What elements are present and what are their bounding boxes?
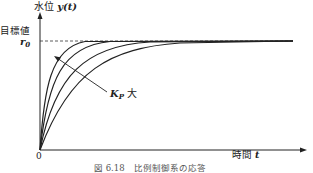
- kp-suffix: 大: [124, 88, 137, 99]
- kp-annotation-label: KP 大: [110, 89, 137, 100]
- curve-kp-largest: [40, 41, 293, 150]
- y-axis-arrow-icon: [38, 12, 43, 19]
- x-axis-label: 時間 t: [232, 150, 259, 160]
- figure-caption: 図 6.18 比例制御系の応答: [94, 164, 206, 173]
- r0-subscript: 0: [25, 40, 30, 49]
- y-axis-variable: y(t): [57, 1, 77, 12]
- x-axis-variable: t: [255, 149, 259, 160]
- y-axis-label-text: 水位: [34, 1, 57, 12]
- x-axis-label-text: 時間: [232, 149, 255, 160]
- origin-label: 0: [36, 152, 42, 161]
- curve-kp-medium: [40, 41, 293, 150]
- kp-annotation-line: [57, 58, 107, 92]
- x-axis-arrow-icon: [300, 148, 307, 153]
- response-chart: [0, 0, 313, 173]
- kp-symbol: K: [110, 88, 119, 99]
- target-value-label: 目標値: [0, 26, 30, 36]
- r0-label: r0: [20, 37, 30, 48]
- curve-kp-small: [40, 41, 293, 150]
- curve-kp-large: [40, 41, 293, 150]
- y-axis-label: 水位 y(t): [34, 2, 77, 12]
